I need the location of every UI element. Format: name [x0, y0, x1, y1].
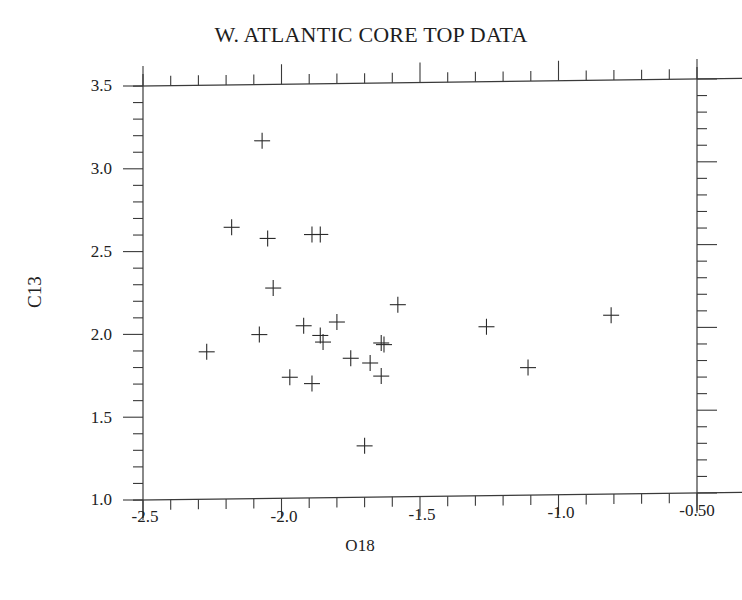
y-tick-label-3.0: 3.0 [72, 159, 112, 179]
x-tick-label--1.0: -1.0 [531, 503, 591, 523]
plot-frame [133, 67, 742, 518]
x-axis-label: O18 [310, 536, 410, 556]
data-point [312, 226, 328, 242]
x-tick-label--1.5: -1.5 [392, 505, 452, 525]
data-point [376, 337, 392, 353]
y-tick-label-2.5: 2.5 [72, 242, 112, 262]
y-tick-label-1.0: 1.0 [72, 490, 112, 510]
x-tick-label--2.5: -2.5 [115, 507, 175, 527]
data-point [224, 219, 240, 235]
data-point [304, 376, 320, 392]
data-point [265, 280, 281, 296]
data-point [254, 133, 270, 149]
y-tick-label-1.5: 1.5 [72, 408, 112, 428]
y-tick-label-2.0: 2.0 [72, 325, 112, 345]
data-point [251, 327, 267, 343]
x-tick-label--2.0: -2.0 [254, 507, 314, 527]
y-tick-label-3.5: 3.5 [72, 76, 112, 96]
data-point [260, 230, 276, 246]
data-point [199, 344, 215, 360]
data-point [343, 350, 359, 366]
data-point [296, 318, 312, 334]
data-point [478, 319, 494, 335]
data-point [329, 314, 345, 330]
data-point [390, 297, 406, 313]
data-point [520, 360, 536, 376]
data-point [315, 334, 331, 350]
data-point [603, 307, 619, 323]
data-points [199, 133, 619, 454]
data-point [373, 335, 389, 351]
x-tick-label--0.50: -0.50 [667, 501, 727, 521]
data-point [282, 369, 298, 385]
data-point [357, 438, 373, 454]
data-point [373, 368, 389, 384]
data-point [362, 355, 378, 371]
y-axis-label: C13 [24, 276, 46, 308]
data-point [312, 327, 328, 343]
axis-ticks [123, 59, 717, 520]
